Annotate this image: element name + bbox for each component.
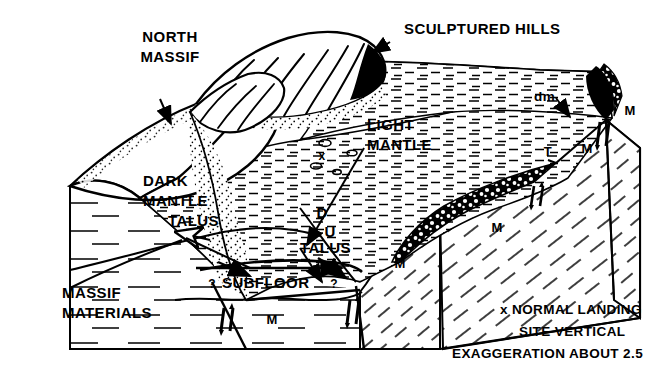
normal-landing-site-marker: x	[318, 149, 325, 163]
label-light-mantle-line1: LIGHT	[367, 116, 414, 133]
label-dark-mantle-line1: DARK	[143, 172, 188, 189]
label-light-mantle-line2: MANTLE	[367, 136, 432, 153]
label-subfloor: SUBFLOOR	[222, 274, 309, 291]
label-north-massif-line2: MASSIF	[140, 48, 199, 65]
unit-symbol-t-1: T	[605, 92, 613, 107]
label-fault-down: D	[316, 204, 327, 221]
label-massif-materials-line1: MASSIF	[62, 284, 121, 301]
label-sculptured-hills: SCULPTURED HILLS	[404, 20, 560, 37]
unit-symbol-m-1: M	[624, 103, 635, 118]
label-fault-up: U	[324, 223, 335, 240]
label-subfloor-query-right: ?	[330, 277, 338, 291]
label-dark-mantle-line3: TALUS	[168, 212, 219, 229]
legend-line-2: SITE VERTICAL	[519, 324, 625, 339]
unit-symbol-t-2: T	[544, 144, 552, 159]
unit-symbol-m-5: M	[266, 312, 277, 327]
unit-symbol-m-4: M	[394, 256, 405, 271]
label-dark-mantle-line2: MANTLE	[143, 192, 208, 209]
label-north-massif-line1: NORTH	[142, 28, 197, 45]
figure-canvas: x NORTH MASSIF SCULPTURED HILLS LIGHT MA…	[0, 0, 664, 388]
block-diagram: x NORTH MASSIF SCULPTURED HILLS LIGHT MA…	[0, 0, 664, 388]
legend-line-1: x NORMAL LANDING	[500, 302, 642, 317]
unit-symbol-m-3: M	[491, 220, 502, 235]
label-talus: TALUS	[300, 239, 351, 256]
legend-line-3: EXAGGERATION ABOUT 2.5	[452, 346, 643, 361]
label-massif-materials-line2: MATERIALS	[62, 304, 152, 321]
label-subfloor-query-left: ?	[208, 277, 216, 291]
label-dm: dm	[534, 89, 555, 104]
unit-symbol-m-2: M	[581, 141, 592, 156]
